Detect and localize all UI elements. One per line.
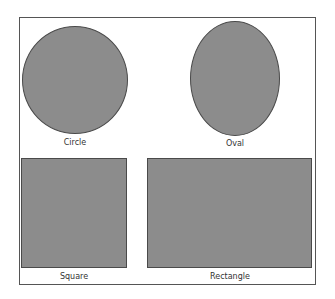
rectangle-shape [147, 158, 312, 268]
oval-label: Oval [185, 139, 285, 148]
circle-shape [22, 26, 128, 134]
square-shape [21, 158, 127, 268]
circle-label: Circle [25, 138, 125, 147]
rectangle-label: Rectangle [180, 272, 280, 281]
oval-shape [190, 21, 280, 136]
square-label: Square [24, 272, 124, 281]
